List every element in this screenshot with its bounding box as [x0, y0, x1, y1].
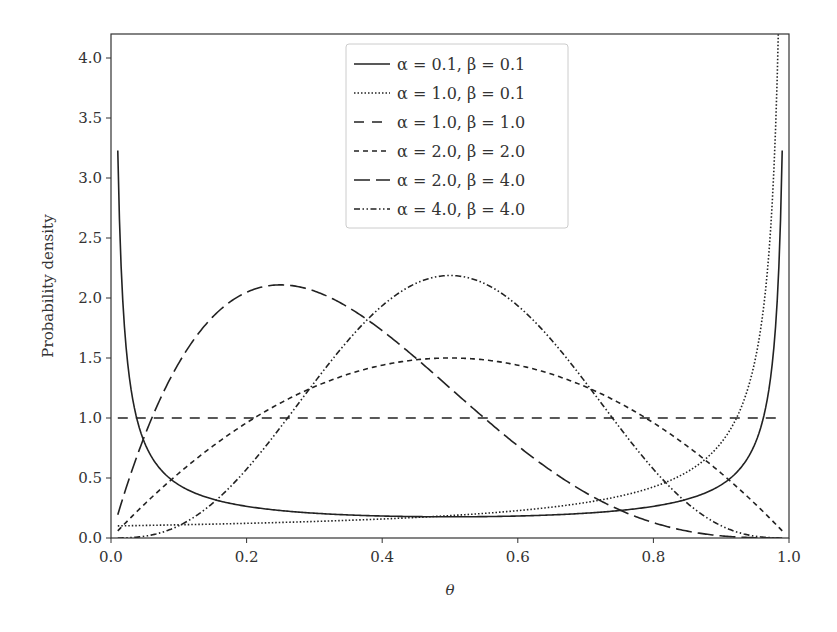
- y-axis-ticks: 0.00.51.01.52.02.53.03.54.0: [78, 49, 111, 547]
- x-tick-label: 0.2: [235, 548, 259, 566]
- y-tick-label: 3.0: [78, 169, 102, 187]
- legend: α = 0.1, β = 0.1α = 1.0, β = 0.1α = 1.0,…: [346, 44, 568, 228]
- y-tick-label: 3.5: [78, 109, 102, 127]
- x-tick-label: 1.0: [777, 548, 801, 566]
- beta-distribution-chart: 0.00.20.40.60.81.0 0.00.51.01.52.02.53.0…: [0, 0, 837, 632]
- x-tick-label: 0.0: [99, 548, 123, 566]
- legend-label-0: α = 0.1, β = 0.1: [397, 55, 525, 74]
- legend-label-5: α = 4.0, β = 4.0: [397, 200, 525, 219]
- x-tick-label: 0.6: [506, 548, 530, 566]
- y-tick-label: 1.5: [78, 349, 102, 367]
- y-tick-label: 0.0: [78, 529, 102, 547]
- curve-3: [118, 358, 782, 531]
- curve-5: [118, 276, 782, 538]
- legend-label-3: α = 2.0, β = 2.0: [397, 142, 525, 161]
- y-tick-label: 0.5: [78, 469, 102, 487]
- legend-label-4: α = 2.0, β = 4.0: [397, 171, 525, 190]
- x-tick-label: 0.8: [641, 548, 665, 566]
- x-tick-label: 0.4: [370, 548, 394, 566]
- y-axis-label: Probability density: [39, 214, 57, 358]
- y-tick-label: 2.5: [78, 229, 102, 247]
- y-tick-label: 1.0: [78, 409, 102, 427]
- x-axis-ticks: 0.00.20.40.60.81.0: [99, 538, 801, 566]
- y-tick-label: 4.0: [78, 49, 102, 67]
- legend-label-1: α = 1.0, β = 0.1: [397, 84, 525, 103]
- x-axis-label: θ: [445, 581, 454, 599]
- y-tick-label: 2.0: [78, 289, 102, 307]
- legend-label-2: α = 1.0, β = 1.0: [397, 113, 525, 132]
